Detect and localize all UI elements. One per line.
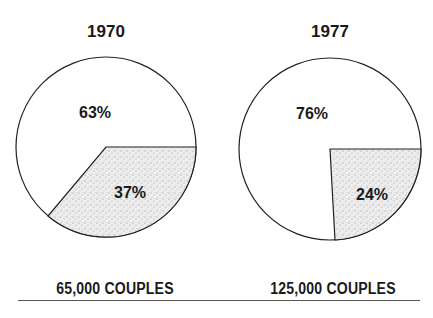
pie-1977-title: 1977 (280, 22, 380, 42)
pie-1977-caption: 125,000 COUPLES (245, 280, 421, 298)
pie-1970-label-37: 37% (114, 184, 146, 201)
pie-1970-title: 1970 (56, 22, 156, 42)
pie-1977-label-24: 24% (356, 186, 388, 203)
pie-1970-label-63: 63% (79, 104, 111, 121)
pie-1977: 76% 24% (239, 58, 421, 240)
bottom-rule (18, 300, 420, 301)
pie-charts: 63% 37% 76% 24% (0, 0, 433, 318)
pie-1970-caption: 65,000 COUPLES (27, 280, 203, 298)
pie-1970: 63% 37% (16, 57, 196, 237)
pie-1977-label-76: 76% (296, 105, 328, 122)
